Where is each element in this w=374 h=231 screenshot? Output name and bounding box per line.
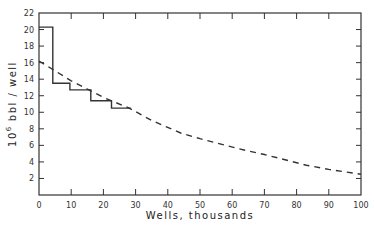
y-axis-title-exponent: 6 (5, 125, 13, 131)
plot-frame (39, 13, 361, 195)
x-tick-label: 70 (259, 201, 269, 210)
x-tick-label: 40 (163, 201, 173, 210)
y-tick-label: 2 (29, 174, 34, 183)
plot-border (39, 13, 361, 195)
x-tick-label: 10 (66, 201, 76, 210)
x-tick-label: 0 (36, 201, 41, 210)
y-tick-label: 10 (24, 108, 34, 117)
x-tick-label: 20 (98, 201, 108, 210)
y-tick-label: 16 (24, 59, 34, 68)
historical-step-line (39, 27, 131, 108)
y-tick-label: 22 (24, 9, 34, 18)
svg-text:106bbl / well: 106bbl / well (5, 61, 18, 147)
y-tick-label: 14 (24, 75, 34, 84)
y-tick-label: 20 (24, 26, 34, 35)
x-tick-label: 90 (324, 201, 334, 210)
x-tick-label: 30 (131, 201, 141, 210)
y-tick-label: 8 (29, 125, 34, 134)
y-tick-label: 4 (29, 158, 34, 167)
y-axis-title-text: bbl / well (7, 61, 18, 121)
y-tick-label: 12 (24, 92, 34, 101)
projection-dashed-line (39, 61, 361, 174)
chart: 0102030405060708090100 24681012141618202… (0, 0, 374, 231)
x-axis-title: Wells, thousands (146, 210, 255, 221)
x-tick-label: 60 (227, 201, 237, 210)
y-tick-label: 6 (29, 141, 34, 150)
x-tick-label: 80 (292, 201, 302, 210)
x-tick-label: 100 (353, 201, 368, 210)
y-axis-title: 106bbl / well (5, 61, 18, 147)
y-axis-ticks: 246810121416182022 (24, 9, 361, 183)
y-axis-title-base: 10 (7, 131, 18, 147)
x-tick-label: 50 (195, 201, 205, 210)
plot-series (39, 27, 361, 174)
x-axis-ticks: 0102030405060708090100 (36, 13, 368, 210)
y-tick-label: 18 (24, 42, 34, 51)
